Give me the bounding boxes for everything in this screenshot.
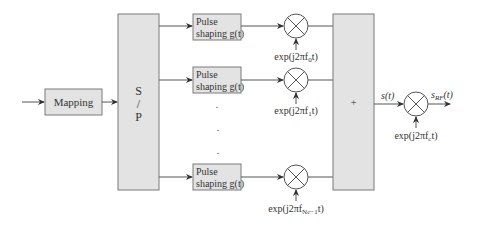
pulse-label-1b: shaping g(t) bbox=[196, 81, 244, 93]
baseband-label: s(t) bbox=[381, 90, 395, 102]
pulse-label-2a: Pulse bbox=[196, 166, 218, 177]
pulse-label-1a: Pulse bbox=[196, 69, 218, 80]
rf-carrier-label: exp(j2πfct) bbox=[394, 130, 437, 143]
multiplier-icon bbox=[284, 68, 308, 92]
sp-label-p: P bbox=[135, 110, 142, 124]
ellipsis-dots: . . . bbox=[216, 99, 220, 156]
rf-output-label: sRF(t) bbox=[431, 89, 454, 102]
carrier-label-last: exp(j2πfNc−1t) bbox=[268, 203, 324, 216]
svg-text:.: . bbox=[217, 145, 220, 156]
sum-label: + bbox=[350, 96, 356, 108]
carrier-label-0: exp(j2πf0t) bbox=[274, 51, 318, 64]
pulse-label-2b: shaping g(t) bbox=[196, 178, 244, 190]
svg-text:.: . bbox=[217, 122, 220, 133]
pulse-label-0a: Pulse bbox=[196, 16, 218, 27]
pulse-shaping-block-1: Pulse shaping g(t) bbox=[193, 67, 244, 93]
pulse-label-0b: shaping g(t) bbox=[196, 28, 244, 40]
mapping-block: Mapping bbox=[45, 89, 102, 115]
pulse-shaping-block-0: Pulse shaping g(t) bbox=[193, 14, 244, 40]
multiplier-icon bbox=[284, 14, 308, 38]
summation-block: + bbox=[333, 14, 374, 190]
rf-multiplier-icon bbox=[404, 92, 428, 116]
multiplier-icon bbox=[284, 165, 308, 189]
sp-label-s: S bbox=[135, 84, 142, 98]
mapping-label: Mapping bbox=[54, 96, 94, 108]
carrier-label-1: exp(j2πf1t) bbox=[274, 105, 318, 118]
pulse-shaping-block-last: Pulse shaping g(t) bbox=[193, 164, 244, 190]
ofdm-block-diagram: Mapping S / P Pulse shaping g(t) exp(j2π… bbox=[0, 0, 477, 226]
svg-text:.: . bbox=[216, 99, 219, 110]
serial-to-parallel-block: S / P bbox=[118, 14, 159, 190]
